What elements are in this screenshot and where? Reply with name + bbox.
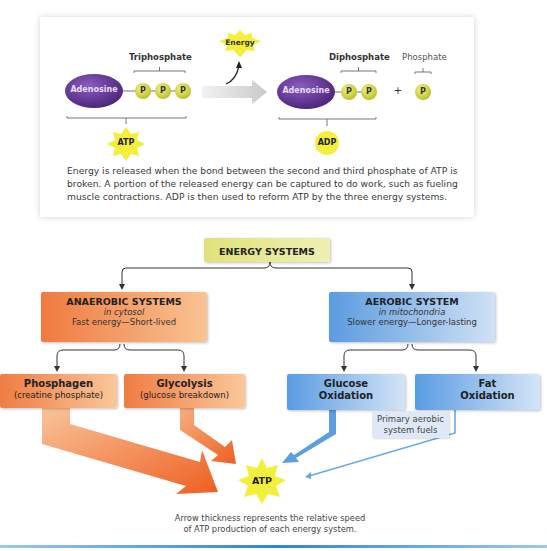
atp-caption: Energy is released when the bond between… [67,164,467,203]
p-label: P [417,87,429,96]
footnote-line-1: Arrow thickness represents the relative … [130,513,410,524]
atp-badge-label: ATP [110,138,142,147]
aerobic-title: AEROBIC SYSTEM [329,296,495,307]
reaction-arrow [202,80,267,104]
aerobic-system-box: AEROBIC SYSTEM in mitochondria Slower en… [329,292,495,342]
anaerobic-location: in cytosol [41,307,207,317]
root-label: ENERGY SYSTEMS [219,246,315,257]
phosphagen-box: Phosphagen (creatine phosphate) [0,374,117,408]
energy-label: Energy [216,38,264,47]
aerobic-summary: Slower energy—Longer-lasting [329,317,495,327]
glycolysis-arrow [180,408,236,464]
aerobic-location: in mitochondria [329,307,495,317]
footnote-line-2: of ATP production of each energy system. [130,524,410,535]
glucose-oxidation-title: Glucose Oxidation [307,378,385,402]
p-label: P [137,86,149,95]
phosphagen-title: Phosphagen [0,378,117,390]
phosphate-label: Phosphate [402,52,447,62]
fat-oxidation-title: Fat Oxidation [455,378,520,402]
fuel-note: Primary aerobic system fuels [372,411,449,438]
adenosine-label-right: Adenosine [277,86,335,95]
bottom-rule [0,545,547,548]
plus-sign: + [392,85,404,96]
adp-molecule [277,67,431,155]
diagram-graphics [0,0,547,551]
p-label: P [177,86,189,95]
p-label: P [363,87,375,96]
anaerobic-summary: Fast energy—Short-lived [41,317,207,327]
footnote: Arrow thickness represents the relative … [130,513,410,535]
triphosphate-label: Triphosphate [129,52,192,62]
atp-output-label: ATP [244,475,280,486]
fat-oxidation-box: Fat Oxidation [415,374,540,410]
adenosine-label-left: Adenosine [65,85,123,94]
anaerobic-title: ANAEROBIC SYSTEMS [41,296,207,307]
glucose-oxidation-box: Glucose Oxidation [287,374,405,410]
phosphagen-subtitle: (creatine phosphate) [0,390,117,400]
atp-molecule [65,67,191,124]
adp-badge-label: ADP [311,138,343,147]
anaerobic-systems-box: ANAEROBIC SYSTEMS in cytosol Fast energy… [41,292,207,342]
glycolysis-subtitle: (glucose breakdown) [124,390,245,400]
glycolysis-box: Glycolysis (glucose breakdown) [124,374,245,408]
p-label: P [157,86,169,95]
energy-systems-root: ENERGY SYSTEMS [204,238,330,262]
glucose-oxidation-arrow [282,408,336,463]
glycolysis-title: Glycolysis [124,378,245,390]
p-label: P [343,87,355,96]
diphosphate-label: Diphosphate [329,52,390,62]
